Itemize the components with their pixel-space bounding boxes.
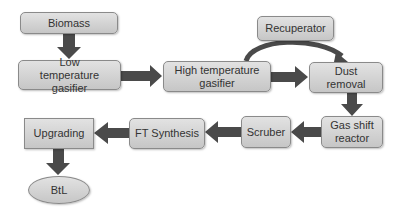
node-label: High temperature gasifier — [175, 64, 260, 90]
node-biomass: Biomass — [20, 12, 118, 34]
arrow-low-to-high-temp — [121, 65, 162, 87]
arrow-high-temp-to-dust — [271, 66, 308, 88]
arrow-gas-shift-to-scruber — [291, 121, 321, 143]
node-upgrading: Upgrading — [24, 118, 94, 149]
node-label: Low temperature gasifier — [30, 56, 110, 95]
node-gas-shift-reactor: Gas shift reactor — [321, 116, 383, 148]
node-scruber: Scruber — [241, 116, 291, 148]
node-ft-synthesis: FT Synthesis — [129, 118, 205, 149]
arrow-recuperator-curve — [246, 42, 342, 61]
node-btl: BtL — [28, 176, 90, 204]
node-high-temperature-gasifier: High temperature gasifier — [163, 61, 271, 92]
arrow-ft-to-upgrading — [94, 122, 129, 144]
node-label: Recuperator — [265, 22, 326, 35]
node-label: FT Synthesis — [135, 127, 199, 140]
node-label: Dust removal — [324, 65, 368, 91]
node-label: Gas shift reactor — [327, 119, 377, 145]
node-label: BtL — [51, 184, 68, 197]
arrow-dust-to-gas-shift — [341, 93, 363, 116]
node-label: Biomass — [48, 17, 90, 30]
arrow-upgrading-to-btl — [46, 149, 70, 175]
node-label: Upgrading — [34, 127, 85, 140]
node-dust-removal: Dust removal — [309, 62, 383, 93]
arrow-scruber-to-ft — [205, 121, 241, 143]
node-low-temperature-gasifier: Low temperature gasifier — [18, 60, 121, 90]
node-label: Scruber — [247, 126, 286, 139]
node-recuperator: Recuperator — [257, 16, 334, 41]
